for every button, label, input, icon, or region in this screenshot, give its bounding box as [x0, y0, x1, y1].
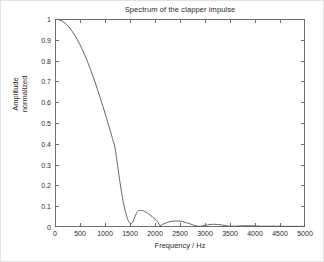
axis-ticks — [55, 19, 305, 227]
y-tick-label: 0.5 — [41, 120, 51, 127]
y-tick-label: 0.1 — [41, 203, 51, 210]
x-tick-label: 2500 — [172, 230, 188, 237]
y-axis-label-line-2: normalized — [20, 59, 29, 129]
figure-window: Spectrum of the clapper impulse Amplitud… — [0, 0, 324, 262]
chart-figure: Spectrum of the clapper impulse Amplitud… — [1, 1, 323, 261]
y-axis-label: Amplitude normalized — [11, 59, 29, 129]
x-tick-label: 5000 — [297, 230, 313, 237]
y-tick-label: 0.4 — [41, 140, 51, 147]
x-tick-label: 0 — [53, 230, 57, 237]
y-tick-label: 0.7 — [41, 78, 51, 85]
y-axis-label-line-1: Amplitude — [11, 59, 20, 129]
y-tick-label: 0 — [47, 224, 51, 231]
axis-frame — [56, 20, 305, 227]
y-tick-label: 0.8 — [41, 57, 51, 64]
y-tick-label: 0.3 — [41, 161, 51, 168]
x-tick-label: 1500 — [122, 230, 138, 237]
spectrum-line-chart — [55, 19, 305, 227]
x-tick-label: 2000 — [147, 230, 163, 237]
x-tick-label: 1000 — [97, 230, 113, 237]
x-tick-label: 500 — [74, 230, 86, 237]
y-tick-label: 0.6 — [41, 99, 51, 106]
plot-area: 00.10.20.30.40.50.60.70.80.91 0500100015… — [55, 19, 305, 227]
y-tick-label: 0.9 — [41, 36, 51, 43]
x-tick-label: 3500 — [222, 230, 238, 237]
y-tick-label: 0.2 — [41, 182, 51, 189]
x-tick-label: 4500 — [272, 230, 288, 237]
x-tick-label: 3000 — [197, 230, 213, 237]
spectrum-curve — [55, 19, 305, 226]
x-axis-label: Frequency / Hz — [55, 241, 305, 250]
chart-title: Spectrum of the clapper impulse — [55, 5, 305, 14]
y-tick-label: 1 — [47, 16, 51, 23]
x-tick-label: 4000 — [247, 230, 263, 237]
